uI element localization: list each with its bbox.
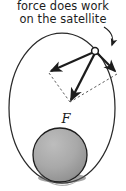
planet-body [33, 128, 87, 182]
satellite-force-diagram: force does work on the satellite [0, 0, 126, 191]
radial-component-vector [96, 52, 115, 71]
motion-direction-arrow [104, 27, 113, 45]
force-label-F: F [60, 111, 71, 126]
diagram-canvas: F [0, 0, 126, 191]
satellite-marker [92, 48, 99, 55]
dashed-construction-left [49, 73, 70, 102]
